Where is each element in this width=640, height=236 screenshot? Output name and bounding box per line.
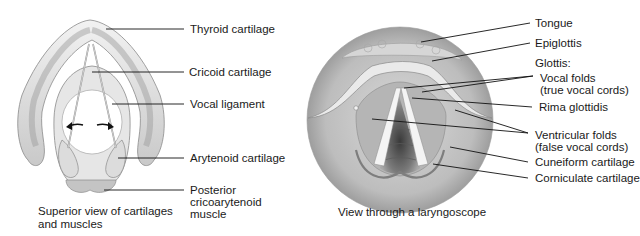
label-corniculate-cartilage: Corniculate cartilage (535, 172, 640, 184)
label-ventricular-folds-line1: Ventricular folds (535, 129, 617, 141)
label-posterior-line2: cricoarytenoid (190, 196, 262, 208)
label-tongue: Tongue (535, 17, 573, 29)
label-arytenoid-cartilage: Arytenoid cartilage (190, 152, 285, 164)
caption-laryngoscope-view: View through a laryngoscope (338, 206, 486, 219)
caption-superior-view-line1: Superior view of cartilages (38, 205, 173, 218)
label-ventricular-folds-line2: (false vocal cords) (535, 141, 628, 153)
caption-superior-view-line2: and muscles (38, 218, 103, 231)
label-thyroid-cartilage: Thyroid cartilage (190, 23, 275, 35)
label-vocal-ligament: Vocal ligament (190, 98, 265, 110)
label-vocal-folds-line1: Vocal folds (540, 72, 596, 84)
label-cricoid-cartilage: Cricoid cartilage (189, 66, 271, 78)
label-posterior-line1: Posterior (190, 184, 236, 196)
label-epiglottis: Epiglottis (535, 37, 582, 49)
larynx-superior-view (18, 20, 165, 192)
label-cuneiform-cartilage: Cuneiform cartilage (535, 156, 635, 168)
label-posterior-line3: muscle (190, 208, 226, 220)
label-vocal-folds-line2: (true vocal cords) (540, 84, 629, 96)
label-rima-glottidis: Rima glottidis (539, 101, 608, 113)
label-glottis: Glottis: (535, 57, 571, 69)
